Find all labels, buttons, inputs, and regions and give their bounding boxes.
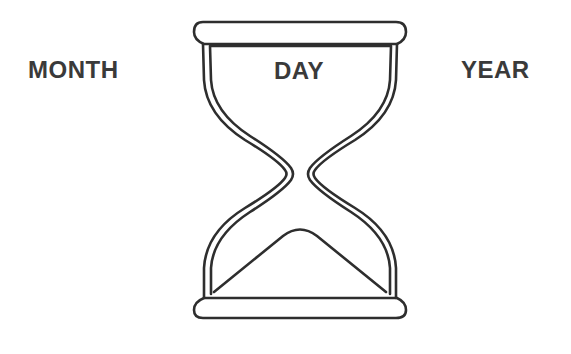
year-label: YEAR [461, 58, 530, 82]
hourglass-icon [0, 0, 571, 354]
month-label: MONTH [28, 58, 118, 82]
top-cap [194, 22, 406, 44]
day-label: DAY [274, 59, 324, 83]
bottom-cap [194, 298, 406, 318]
sand-pile [214, 230, 386, 293]
